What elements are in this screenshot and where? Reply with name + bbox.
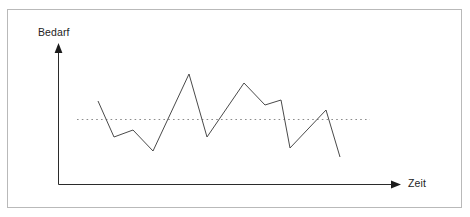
demand-series-line <box>98 74 340 157</box>
x-axis-arrow-icon <box>391 181 401 189</box>
plot-area <box>0 0 470 217</box>
x-axis-label: Zeit <box>408 177 426 189</box>
y-axis-arrow-icon <box>55 43 63 53</box>
diagram-canvas: Bedarf Zeit <box>0 0 470 217</box>
y-axis-label: Bedarf <box>38 26 70 38</box>
